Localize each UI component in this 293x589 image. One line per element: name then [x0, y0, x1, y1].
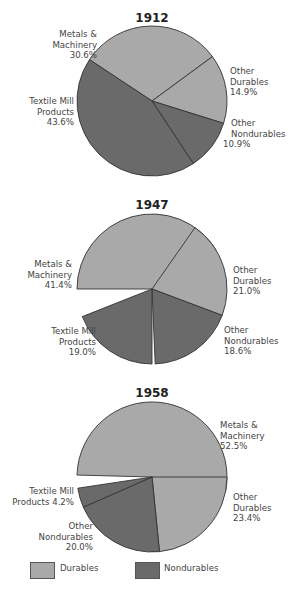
legend-label-durables: Durables	[60, 563, 98, 573]
pie-1958: 1958Metals &Machinery52.5%Textile MillPr…	[12, 386, 272, 552]
legend-swatch-durables	[30, 562, 55, 579]
slice-label: Textile MillProducts19.0%	[50, 326, 96, 357]
slice-label: OtherDurables21.0%	[233, 265, 272, 296]
slice-label: Metals &Machinery30.6%	[52, 29, 97, 60]
slice-label: OtherNondurables10.9%	[223, 118, 286, 149]
pie-charts: 1912Metals &Machinery30.6%OtherDurables1…	[0, 0, 293, 560]
pie-1912: 1912Metals &Machinery30.6%OtherDurables1…	[28, 11, 286, 176]
legend: Durables Nondurables	[0, 560, 293, 588]
pie-slice	[152, 477, 227, 552]
pie-title: 1912	[135, 11, 168, 25]
slice-label: Metals &Machinery41.4%	[27, 259, 72, 290]
pie-title: 1947	[135, 198, 168, 212]
slice-label: Textile MillProducts43.6%	[28, 96, 74, 127]
slice-label: Textile MillProducts 4.2%	[12, 486, 74, 507]
pie-1947: 1947Metals &Machinery41.4%OtherDurables2…	[27, 198, 279, 364]
legend-swatch-nondurables	[135, 562, 160, 579]
slice-label: OtherDurables23.4%	[233, 492, 272, 523]
legend-label-nondurables: Nondurables	[164, 563, 218, 573]
slice-label: OtherNondurables18.6%	[224, 325, 279, 356]
pie-title: 1958	[135, 386, 168, 400]
slice-label: OtherNondurables20.0%	[39, 521, 94, 552]
slice-label: OtherDurables14.9%	[230, 66, 269, 97]
slice-label: Metals &Machinery52.5%	[220, 420, 265, 451]
